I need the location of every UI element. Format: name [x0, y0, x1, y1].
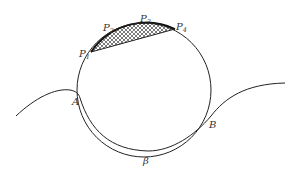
diagram-canvas: P1 P2 P3 P4 A B β [0, 0, 298, 176]
curve-beta [16, 83, 285, 151]
label-a: A [71, 96, 79, 107]
label-p1: P1 [78, 48, 90, 61]
label-b: B [208, 119, 216, 130]
label-beta: β [142, 155, 149, 166]
